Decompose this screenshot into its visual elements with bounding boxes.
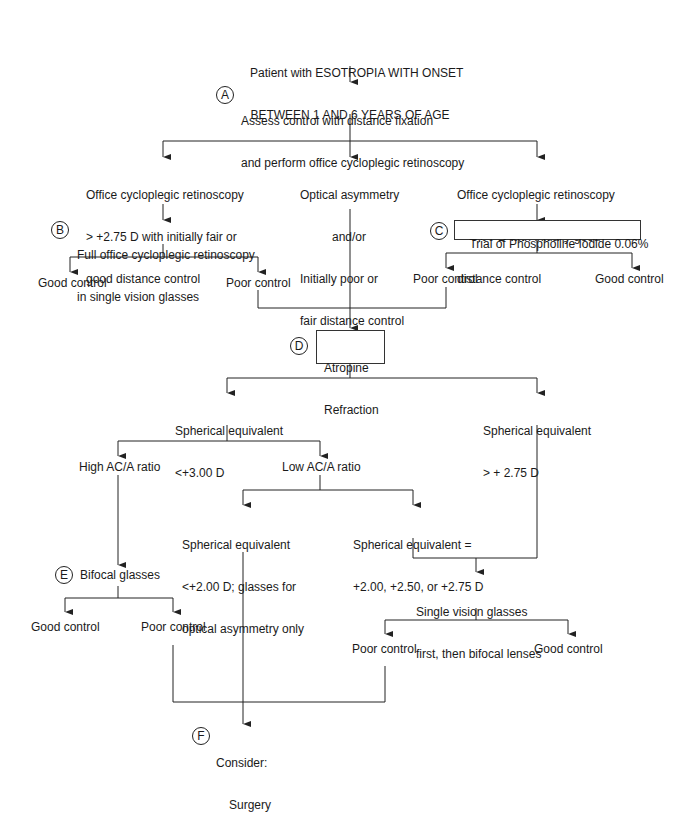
node-f-line-1: Consider:: [216, 756, 271, 770]
se-low-line-2: <+3.00 D: [175, 466, 283, 480]
title-line-1: Patient with ESOTROPIA WITH ONSET: [250, 66, 450, 80]
step-marker-b: B: [51, 221, 69, 239]
node-single-vision-glasses: Single vision glasses first, then bifoca…: [416, 577, 541, 675]
step-marker-f: F: [192, 727, 210, 745]
node-d-line-2: Refraction: [324, 403, 377, 417]
se-lt2-line-2: <+2.00 D; glasses for: [182, 580, 304, 594]
se-high-line-1: Spherical equivalent: [483, 424, 591, 438]
node-b-good-control: Good control: [38, 276, 107, 290]
single-vision-line-1: Single vision glasses: [416, 605, 541, 619]
node-a-line-1: Assess control with distance fixation: [241, 114, 464, 128]
node-b-full-retinoscopy: Full office cycloplegic retinoscopy in s…: [77, 220, 255, 318]
node-b-line-2: in single vision glasses: [77, 290, 255, 304]
node-e-poor-control: Poor control: [141, 620, 206, 634]
node-c-poor-control: Poor control: [413, 272, 478, 286]
se-eq-line-1: Spherical equivalent =: [353, 538, 483, 552]
se-high-line-2: > + 2.75 D: [483, 466, 591, 480]
middle-condition-line-2: and/or: [300, 230, 404, 244]
left-condition-line-1: Office cycloplegic retinoscopy: [86, 188, 244, 202]
node-sv-good-control: Good control: [534, 642, 603, 656]
middle-condition-line-3: Initially poor or: [300, 272, 404, 286]
step-marker-d: D: [290, 337, 308, 355]
node-d-atropine-box: Atropine Refraction: [316, 330, 385, 364]
node-c-phospholine-box: Trial of Phospholine Iodide 0.06%: [454, 220, 641, 240]
node-e-bifocal-glasses: Bifocal glasses: [80, 568, 160, 582]
node-e-good-control: Good control: [31, 620, 100, 634]
node-se-less-than-3: Spherical equivalent <+3.00 D: [175, 396, 283, 494]
single-vision-line-2: first, then bifocal lenses: [416, 647, 541, 661]
se-low-line-1: Spherical equivalent: [175, 424, 283, 438]
node-low-aca-ratio: Low AC/A ratio: [282, 460, 361, 474]
middle-condition-line-4: fair distance control: [300, 314, 404, 328]
node-b-poor-control: Poor control: [226, 276, 291, 290]
node-high-aca-ratio: High AC/A ratio: [79, 460, 160, 474]
right-condition-line-1: Office cycloplegic retinoscopy: [457, 188, 615, 202]
right-condition-line-3: distance control: [457, 272, 615, 286]
node-sv-poor-control: Poor control: [352, 642, 417, 656]
node-f-consider-surgery: Consider: Surgery: [216, 728, 271, 816]
step-marker-e: E: [55, 566, 73, 584]
node-c-label: Trial of Phospholine Iodide 0.06%: [469, 237, 648, 251]
se-lt2-line-1: Spherical equivalent: [182, 538, 304, 552]
node-se-greater-than-2-75: Spherical equivalent > + 2.75 D: [483, 396, 591, 494]
node-f-line-2: Surgery: [216, 798, 271, 812]
step-marker-c: C: [430, 222, 448, 240]
node-d-line-1: Atropine: [324, 361, 377, 375]
node-c-good-control: Good control: [595, 272, 664, 286]
step-marker-a: A: [216, 86, 234, 104]
middle-condition-line-1: Optical asymmetry: [300, 188, 404, 202]
node-middle-condition: Optical asymmetry and/or Initially poor …: [300, 160, 404, 342]
node-b-line-1: Full office cycloplegic retinoscopy: [77, 248, 255, 262]
